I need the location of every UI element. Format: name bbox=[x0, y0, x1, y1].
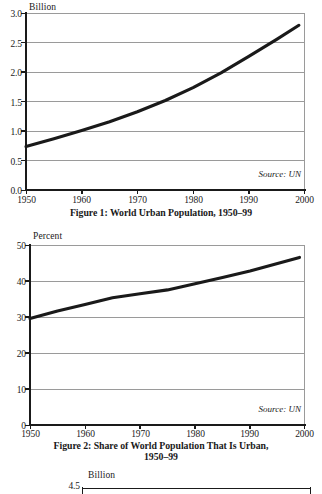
figure-2-caption-line-1: Figure 2: Share of World Population That… bbox=[0, 440, 322, 452]
figure-2-data-line bbox=[30, 257, 300, 318]
figure-2-share-urban: Percent 0 10 20 30 40 50 bbox=[0, 228, 322, 468]
figure-1-xtick-1950: 1950 bbox=[6, 195, 47, 205]
figure-2-xtick-1990: 1990 bbox=[229, 429, 270, 439]
figure-3-partial: Billion 4.5 bbox=[0, 468, 322, 494]
figure-1-data-line bbox=[26, 25, 299, 146]
figure-1-source-note: Source: UN bbox=[259, 169, 301, 179]
figure-1-xtick-2000: 2000 bbox=[284, 195, 322, 205]
figure-2-xtick-1950: 1950 bbox=[10, 429, 51, 439]
figure-2-xtick-2000: 2000 bbox=[284, 429, 322, 439]
figure-2-xtick-1980: 1980 bbox=[175, 429, 216, 439]
figure-1-xtick-1980: 1980 bbox=[173, 195, 214, 205]
figure-3-plot bbox=[0, 468, 322, 494]
figure-2-caption-line-2: 1950–99 bbox=[0, 451, 322, 463]
figure-1-world-urban-population: Billion 0.0 0.5 1.0 1.5 2.0 2.5 3.0 bbox=[0, 0, 322, 222]
figure-1-xtick-1970: 1970 bbox=[117, 195, 158, 205]
figure-1-xtick-1960: 1960 bbox=[61, 195, 102, 205]
figure-1-caption: Figure 1: World Urban Population, 1950–9… bbox=[0, 207, 322, 219]
figure-2-xtick-1960: 1960 bbox=[65, 429, 106, 439]
figure-2-xtick-1970: 1970 bbox=[120, 429, 161, 439]
figure-1-xtick-1990: 1990 bbox=[228, 195, 269, 205]
figure-2-source-note: Source: UN bbox=[259, 404, 301, 414]
